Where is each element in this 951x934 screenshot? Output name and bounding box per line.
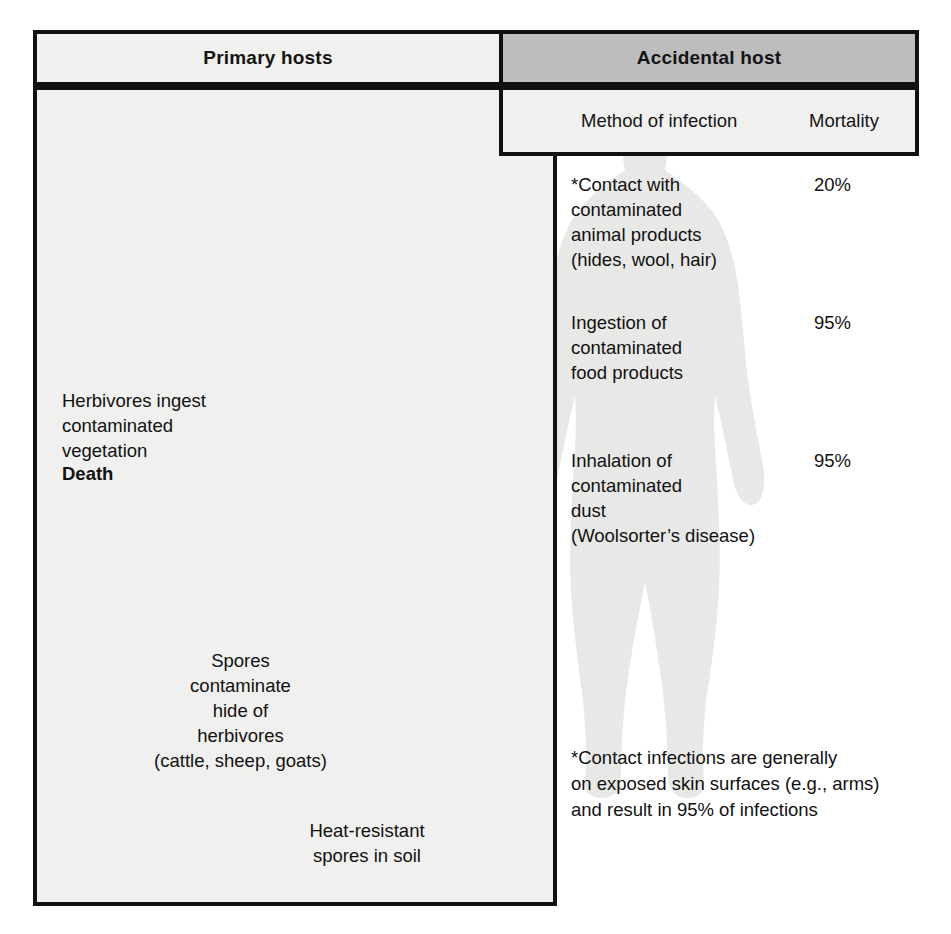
accidental-host-label: Accidental host (503, 47, 915, 69)
accidental-host-header: Accidental host (499, 30, 919, 86)
primary-hosts-label: Primary hosts (37, 47, 499, 69)
herbivore-death-label: Death (62, 463, 113, 485)
spores-contaminate-hide-note: Spores contaminate hide of herbivores (c… (118, 648, 363, 773)
heat-resistant-spores-note: Heat-resistant spores in soil (262, 818, 472, 868)
accidental-host-subheader-row: Method of infection Mortality (499, 86, 919, 156)
diagram-canvas: .arw { fill:#b3b3b3; stroke:#111111; str… (0, 0, 951, 934)
herbivore-ingestion-note: Herbivores ingest contaminated vegetatio… (62, 388, 206, 463)
method-of-infection-label: Method of infection (581, 110, 737, 132)
contact-infection-footnote: *Contact infections are generally on exp… (571, 745, 879, 823)
mortality-value-contact: 20% (814, 172, 851, 197)
mortality-value-ingestion: 95% (814, 310, 851, 335)
mortality-label: Mortality (809, 110, 879, 132)
infection-method-inhalation: Inhalation of contaminated dust (Woolsor… (571, 448, 755, 548)
infection-method-contact: *Contact with contaminated animal produc… (571, 172, 717, 272)
infection-method-ingestion: Ingestion of contaminated food products (571, 310, 683, 385)
primary-hosts-panel (33, 86, 557, 906)
primary-hosts-header: Primary hosts (33, 30, 503, 86)
mortality-value-inhalation: 95% (814, 448, 851, 473)
